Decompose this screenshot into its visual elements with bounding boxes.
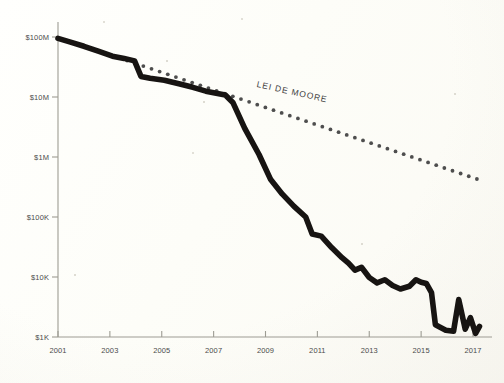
- y-axis-tick-label: $100K: [27, 213, 49, 222]
- x-axis-tick-label: 2001: [49, 346, 66, 355]
- x-axis-tick-label: 2007: [205, 346, 222, 355]
- x-axis-tick-label: 2003: [101, 346, 118, 355]
- x-axis-tick-label: 2013: [361, 346, 378, 355]
- y-axis-tick-label: $10K: [31, 273, 49, 282]
- y-axis-tick-label: $100M: [26, 33, 49, 42]
- x-axis-ticks: [58, 331, 473, 337]
- x-axis-tick-label: 2017: [464, 346, 481, 355]
- chart-page: $100M$10M$1M$100K$10K$1K2001200320052007…: [0, 0, 504, 383]
- moores-law-trend-line: [117, 56, 479, 181]
- y-axis-ticks: [52, 37, 58, 337]
- x-axis-tick-label: 2005: [153, 346, 170, 355]
- y-axis-tick-label: $1K: [35, 333, 49, 342]
- x-axis-tick-label: 2015: [413, 346, 430, 355]
- y-axis-tick-label: $10M: [30, 93, 49, 102]
- y-axis-tick-label: $1M: [34, 153, 49, 162]
- chart-plot-area: [0, 0, 504, 383]
- x-axis-tick-label: 2011: [309, 346, 326, 355]
- x-axis-tick-label: 2009: [257, 346, 274, 355]
